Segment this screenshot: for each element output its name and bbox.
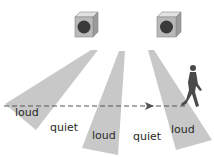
arrow-head-icon — [145, 102, 154, 110]
speaker-icon — [75, 12, 98, 37]
label-loud-1: loud — [15, 107, 39, 118]
label-loud-2: loud — [92, 130, 116, 141]
label-quiet-2: quiet — [133, 131, 161, 142]
label-loud-3: loud — [171, 124, 195, 135]
label-quiet-1: quiet — [50, 122, 78, 133]
speaker-icon — [157, 12, 181, 37]
